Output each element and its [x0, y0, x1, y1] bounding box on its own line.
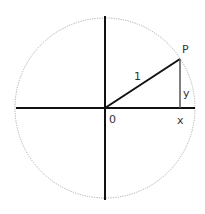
unit-circle-diagram: P 1 0 x y — [0, 0, 205, 214]
x-label: x — [177, 114, 184, 127]
radius-segment — [105, 59, 180, 108]
origin-label: 0 — [109, 113, 116, 126]
point-p-label: P — [182, 43, 189, 56]
y-label: y — [183, 87, 190, 100]
radius-label: 1 — [134, 70, 141, 83]
